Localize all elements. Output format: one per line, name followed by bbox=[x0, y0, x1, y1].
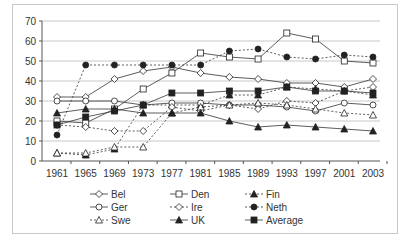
square-marker-icon bbox=[255, 56, 261, 62]
y-tick-label: 10 bbox=[25, 136, 37, 147]
diamond-marker-icon bbox=[197, 70, 204, 77]
legend-item-bel: Bel bbox=[90, 189, 125, 200]
circle-marker-icon bbox=[54, 132, 60, 138]
x-tick-label: 1977 bbox=[161, 168, 184, 179]
circle-marker-icon bbox=[83, 62, 89, 68]
square-marker-icon bbox=[313, 36, 319, 42]
x-tick-label: 1993 bbox=[276, 168, 299, 179]
triangle-marker-icon bbox=[283, 122, 290, 129]
square-marker-icon bbox=[226, 54, 232, 60]
legend-label: Swe bbox=[111, 215, 131, 226]
square-marker-icon bbox=[341, 58, 347, 64]
circle-marker-icon bbox=[54, 98, 60, 104]
legend-label: UK bbox=[191, 215, 205, 226]
y-tick-label: 20 bbox=[25, 116, 37, 127]
square-marker-icon bbox=[198, 90, 204, 96]
triangle-marker-icon bbox=[370, 112, 377, 119]
grid-lines bbox=[42, 21, 380, 141]
x-tick-label: 1981 bbox=[190, 168, 213, 179]
square-marker-icon bbox=[251, 217, 257, 223]
legend-item-swe: Swe bbox=[90, 215, 131, 226]
circle-marker-icon bbox=[169, 62, 175, 68]
series-line bbox=[57, 33, 373, 123]
x-tick-label: 1965 bbox=[75, 168, 98, 179]
triangle-marker-icon bbox=[251, 191, 258, 198]
square-marker-icon bbox=[370, 90, 376, 96]
y-tick-label: 60 bbox=[25, 36, 37, 47]
square-marker-icon bbox=[140, 86, 146, 92]
circle-marker-icon bbox=[226, 48, 232, 54]
circle-marker-icon bbox=[198, 62, 204, 68]
circle-marker-icon bbox=[370, 54, 376, 60]
square-marker-icon bbox=[226, 88, 232, 94]
y-tick-label: 50 bbox=[25, 56, 37, 67]
diamond-marker-icon bbox=[226, 74, 233, 81]
legend-label: Den bbox=[191, 189, 209, 200]
triangle-marker-icon bbox=[82, 150, 89, 157]
legend-label: Average bbox=[266, 215, 304, 226]
series-bel bbox=[54, 64, 377, 101]
circle-marker-icon bbox=[255, 46, 261, 52]
diamond-marker-icon bbox=[96, 191, 103, 198]
square-marker-icon bbox=[198, 50, 204, 56]
y-tick-label: 70 bbox=[25, 16, 37, 27]
legend-item-den: Den bbox=[170, 189, 209, 200]
legend: BelDenFinGerIreNethSweUKAverage bbox=[90, 189, 304, 226]
square-marker-icon bbox=[176, 191, 182, 197]
x-tick-label: 2003 bbox=[362, 168, 385, 179]
legend-label: Neth bbox=[266, 202, 287, 213]
square-marker-icon bbox=[255, 88, 261, 94]
circle-marker-icon bbox=[96, 204, 102, 210]
square-marker-icon bbox=[54, 122, 60, 128]
square-marker-icon bbox=[140, 102, 146, 108]
circle-marker-icon bbox=[111, 98, 117, 104]
y-tick-label: 30 bbox=[25, 96, 37, 107]
series-line bbox=[57, 109, 373, 131]
square-marker-icon bbox=[313, 88, 319, 94]
circle-marker-icon bbox=[111, 62, 117, 68]
line-chart: 0102030405060701961196519691973197719811… bbox=[0, 0, 408, 247]
legend-item-neth: Neth bbox=[245, 202, 287, 213]
x-tick-label: 1985 bbox=[218, 168, 241, 179]
series-group bbox=[54, 30, 377, 158]
circle-marker-icon bbox=[284, 54, 290, 60]
series-den bbox=[54, 30, 376, 126]
circle-marker-icon bbox=[83, 98, 89, 104]
legend-item-average: Average bbox=[245, 215, 304, 226]
legend-label: Fin bbox=[266, 189, 280, 200]
legend-item-ger: Ger bbox=[90, 202, 128, 213]
legend-label: Ire bbox=[191, 202, 203, 213]
legend-item-ire: Ire bbox=[170, 202, 203, 213]
square-marker-icon bbox=[370, 60, 376, 66]
triangle-marker-icon bbox=[96, 217, 103, 224]
series-line bbox=[57, 87, 373, 125]
square-marker-icon bbox=[341, 88, 347, 94]
y-tick-label: 0 bbox=[30, 156, 36, 167]
diamond-marker-icon bbox=[176, 204, 183, 211]
diamond-marker-icon bbox=[370, 84, 377, 91]
circle-marker-icon bbox=[341, 52, 347, 58]
square-marker-icon bbox=[169, 70, 175, 76]
series-ger bbox=[54, 98, 376, 114]
circle-marker-icon bbox=[341, 100, 347, 106]
x-tick-label: 2001 bbox=[333, 168, 356, 179]
square-marker-icon bbox=[83, 114, 89, 120]
x-tick-label: 1969 bbox=[103, 168, 126, 179]
circle-marker-icon bbox=[140, 62, 146, 68]
series-line bbox=[57, 101, 373, 111]
circle-marker-icon bbox=[313, 56, 319, 62]
square-marker-icon bbox=[111, 108, 117, 114]
y-tick-label: 40 bbox=[25, 76, 37, 87]
x-tick-label: 1997 bbox=[304, 168, 327, 179]
series-uk bbox=[54, 106, 377, 135]
x-tick-label: 1973 bbox=[132, 168, 155, 179]
square-marker-icon bbox=[169, 90, 175, 96]
square-marker-icon bbox=[284, 84, 290, 90]
circle-marker-icon bbox=[251, 204, 257, 210]
x-tick-label: 1989 bbox=[247, 168, 270, 179]
diamond-marker-icon bbox=[140, 68, 147, 75]
legend-label: Bel bbox=[111, 189, 125, 200]
x-tick-label: 1961 bbox=[46, 168, 69, 179]
diamond-marker-icon bbox=[111, 128, 118, 135]
triangle-marker-icon bbox=[54, 150, 61, 157]
